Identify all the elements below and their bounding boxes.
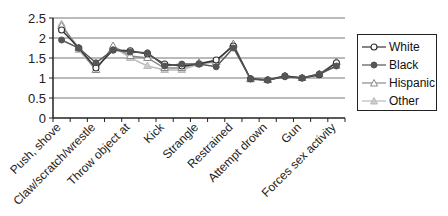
legend-item-black: Black xyxy=(362,58,418,72)
y-axis: 00.511.522.5 xyxy=(28,11,53,126)
data-point xyxy=(76,45,82,51)
series-hispanic xyxy=(58,22,340,83)
data-point xyxy=(179,61,185,67)
y-tick-label: 2.5 xyxy=(28,11,46,26)
legend-item-hispanic: Hispanic xyxy=(362,76,435,90)
y-tick-label: 2 xyxy=(39,31,46,46)
legend-item-white: White xyxy=(362,40,420,54)
legend-label: White xyxy=(389,40,420,54)
legend-label: Hispanic xyxy=(389,76,435,90)
data-point xyxy=(110,47,116,53)
filled-circle-marker-icon xyxy=(362,60,386,70)
x-tick-label: Kick xyxy=(141,120,168,147)
data-point xyxy=(230,45,236,51)
y-tick-label: 0 xyxy=(39,111,46,126)
data-point xyxy=(265,77,271,83)
filled-triangle-marker-icon xyxy=(362,96,386,106)
data-series xyxy=(58,20,340,83)
data-point xyxy=(213,57,219,63)
data-point xyxy=(59,37,65,43)
series-other xyxy=(58,20,340,83)
legend-label: Other xyxy=(389,94,419,108)
x-tick-label: Throw object at xyxy=(65,120,133,188)
series-white xyxy=(59,27,340,83)
data-point xyxy=(316,71,322,77)
open-triangle-marker-icon xyxy=(362,78,386,88)
data-point xyxy=(93,60,99,66)
legend-item-other: Other xyxy=(362,94,419,108)
data-point xyxy=(299,75,305,81)
open-circle-marker-icon xyxy=(362,42,386,52)
data-point xyxy=(333,63,339,69)
data-point xyxy=(282,74,288,80)
data-point xyxy=(127,49,133,55)
legend: White Black Hispanic Other xyxy=(357,34,437,111)
legend-label: Black xyxy=(389,58,418,72)
data-point xyxy=(196,61,202,67)
data-point xyxy=(248,76,254,82)
y-tick-label: 1.5 xyxy=(28,51,46,66)
y-tick-label: 1 xyxy=(39,71,46,86)
data-point xyxy=(162,63,168,69)
x-tick-label: Gun xyxy=(278,120,304,146)
y-tick-label: 0.5 xyxy=(28,91,46,106)
x-axis: Push, shoveClaw/scratch/wrestleThrow obj… xyxy=(7,118,345,208)
data-point xyxy=(59,27,65,33)
data-point xyxy=(144,50,150,56)
data-point xyxy=(213,64,219,70)
